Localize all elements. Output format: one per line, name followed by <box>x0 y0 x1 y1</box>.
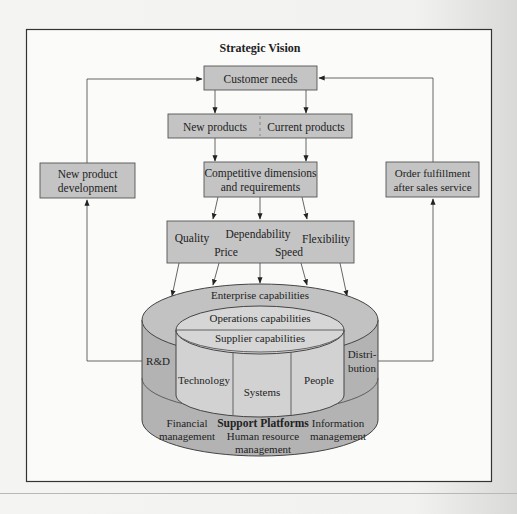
rd-label: R&D <box>146 355 170 367</box>
capabilities-cylinder: Enterprise capabilities Operations capab… <box>142 284 378 456</box>
competitive-dimensions-box: Competitive dimensions and requirements <box>204 162 317 197</box>
customer-needs-box: Customer needs <box>204 66 317 90</box>
supplier-capabilities-label: Supplier capabilities <box>215 332 305 344</box>
financial-label-line1: Financial <box>167 417 208 429</box>
new-product-development-box: New product development <box>40 163 135 198</box>
technology-label: Technology <box>178 374 230 386</box>
dimension-dependability: Dependability <box>225 228 290 241</box>
current-products-label: Current products <box>267 121 345 134</box>
competitive-label-line2: and requirements <box>221 181 301 194</box>
dimensions-box: Quality Dependability Flexibility Price … <box>167 221 354 263</box>
hr-label-line1: Human resource <box>227 430 300 442</box>
support-platforms-title: Support Platforms <box>217 417 309 430</box>
systems-label: Systems <box>244 386 281 398</box>
npd-label-line1: New product <box>58 168 119 181</box>
diagram-title: Strategic Vision <box>220 41 301 55</box>
people-label: People <box>304 374 334 386</box>
distribution-label-line1: Distri- <box>348 348 377 360</box>
order-label-line1: Order fulfillment <box>395 167 470 179</box>
dimension-quality: Quality <box>175 232 210 245</box>
npd-label-line2: development <box>58 182 118 195</box>
information-label-line1: Information <box>312 417 365 429</box>
order-fulfillment-box: Order fulfillment after sales service <box>386 162 479 197</box>
new-products-label: New products <box>183 121 248 134</box>
distribution-label-line2: bution <box>348 362 377 374</box>
enterprise-capabilities-label: Enterprise capabilities <box>211 289 309 301</box>
financial-label-line2: management <box>159 430 215 442</box>
strategic-vision-diagram: Strategic Vision Customer needs New prod… <box>0 0 517 514</box>
dimension-flexibility: Flexibility <box>302 233 350 246</box>
customer-needs-label: Customer needs <box>224 73 298 85</box>
order-label-line2: after sales service <box>393 181 471 193</box>
operations-capabilities-label: Operations capabilities <box>209 312 310 324</box>
hr-label-line2: management <box>235 443 291 455</box>
dimension-speed: Speed <box>275 246 303 259</box>
products-box: New products Current products <box>168 114 352 138</box>
dimension-price: Price <box>214 246 238 258</box>
information-label-line2: management <box>310 430 366 442</box>
competitive-label-line1: Competitive dimensions <box>204 167 317 180</box>
